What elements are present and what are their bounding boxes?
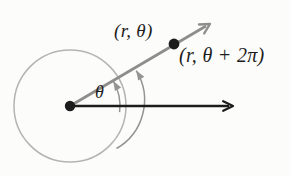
point-label-primary: (r, θ) [114,21,153,42]
point-label-secondary: (r, θ + 2π) [179,44,265,66]
angle-label: θ [95,83,104,103]
full-rotation-arc-arrowhead-icon [133,69,144,81]
point-dot [169,39,180,50]
polar-coordinates-diagram: (r, θ) (r, θ + 2π) θ [0,0,290,176]
pole-dot [65,101,75,111]
